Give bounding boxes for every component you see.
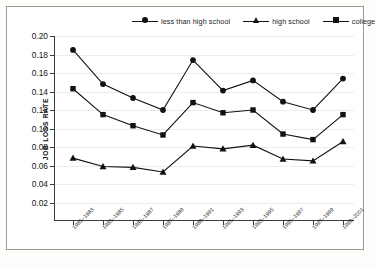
legend-label: high school (272, 17, 309, 26)
data-point (100, 81, 106, 87)
y-tick-label: 0.02 (32, 198, 48, 208)
y-tick-label: 0.08 (32, 142, 48, 152)
data-point (250, 107, 255, 112)
data-point (280, 99, 286, 105)
data-point (310, 107, 316, 113)
legend-item-circle: less than high school (132, 17, 230, 26)
data-point (220, 88, 226, 94)
series-line (73, 50, 343, 110)
y-tick-label: 0.16 (32, 68, 48, 78)
y-tick-label: 0.12 (32, 105, 48, 115)
triangle-icon (253, 17, 259, 23)
data-point (340, 112, 345, 117)
data-point (310, 137, 315, 142)
y-tick-label: 0.18 (32, 50, 48, 60)
data-point (250, 78, 256, 84)
data-point (340, 76, 346, 82)
circle-icon (142, 17, 148, 23)
legend-item-triangle: high school (243, 17, 309, 26)
series-triangle (70, 138, 347, 175)
data-point (70, 86, 75, 91)
data-point (340, 138, 347, 144)
data-point (70, 155, 77, 161)
data-point (160, 132, 165, 137)
legend-label: less than high school (161, 17, 230, 26)
series-layer (54, 36, 354, 221)
chart-figure: less than high schoolhigh schoolcollege … (0, 0, 376, 268)
data-point (250, 142, 257, 148)
square-icon (333, 17, 339, 23)
data-point (160, 107, 166, 113)
legend-marker-triangle-icon (243, 17, 269, 25)
data-point (220, 110, 225, 115)
data-point (190, 100, 195, 105)
data-point (280, 131, 285, 136)
data-point (130, 123, 135, 128)
data-point (100, 112, 105, 117)
chart-legend: less than high schoolhigh schoolcollege (132, 14, 360, 28)
series-line (73, 141, 343, 172)
series-circle (70, 47, 346, 113)
plot-area: JOB LOSS RATE 0.020.040.060.080.100.120.… (54, 36, 354, 221)
y-tick-label: 0.14 (32, 87, 48, 97)
data-point (190, 57, 196, 63)
data-point (190, 143, 197, 149)
data-point (130, 95, 136, 101)
series-line (73, 89, 343, 140)
y-tick-label: 0.10 (32, 124, 48, 134)
legend-item-square: college (323, 17, 375, 26)
series-square (70, 86, 345, 142)
y-tick-label: 0.06 (32, 161, 48, 171)
y-tick-label: 0.04 (32, 179, 48, 189)
legend-marker-circle-icon (132, 17, 158, 25)
legend-marker-square-icon (323, 17, 349, 25)
data-point (70, 47, 76, 53)
y-tick-label: 0.20 (32, 31, 48, 41)
legend-label: college (352, 17, 375, 26)
